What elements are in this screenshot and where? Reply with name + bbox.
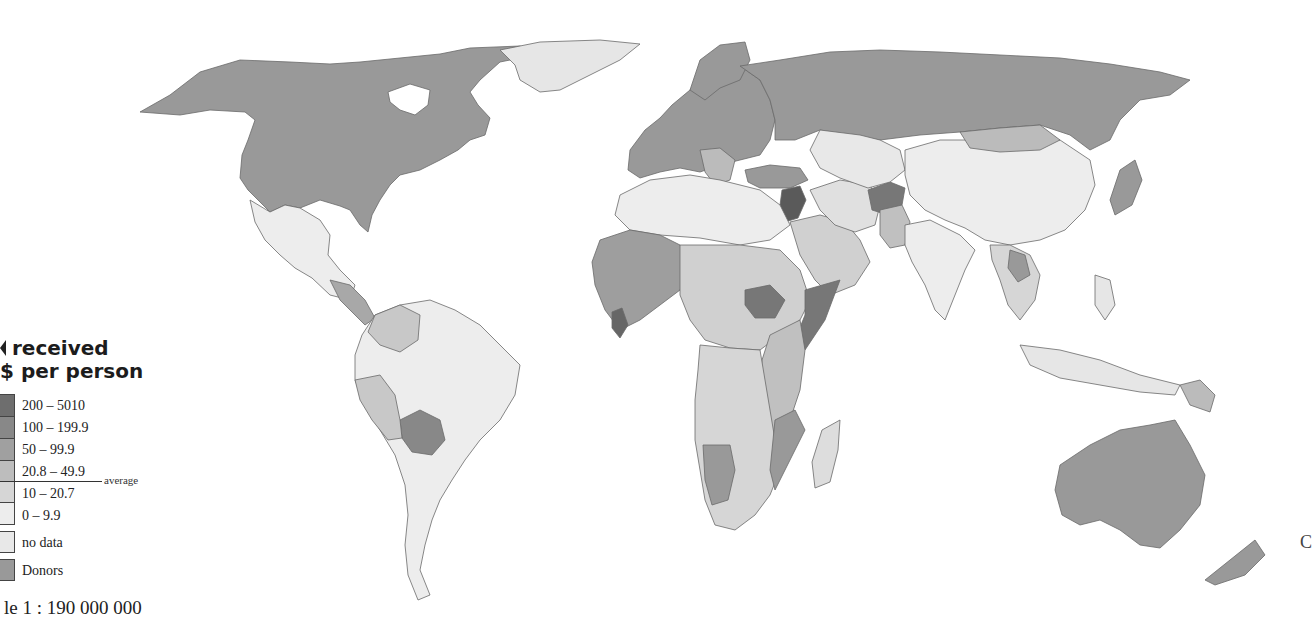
legend-label-no-data: no data (22, 535, 63, 551)
legend-label-0-9: 0 – 9.9 (22, 508, 61, 524)
region-greenland (500, 40, 640, 92)
legend-label-10-20: 10 – 20.7 (22, 486, 75, 502)
average-line (0, 481, 102, 482)
swatch-0-9 (0, 502, 15, 525)
legend-label-100-199: 100 – 199.9 (22, 420, 89, 436)
swatch-200-5010 (0, 394, 15, 417)
legend-label-200-5010: 200 – 5010 (22, 398, 85, 414)
average-label: average (104, 474, 138, 486)
region-mozambique (770, 410, 805, 490)
region-north-america (140, 46, 540, 232)
region-new-zealand (1205, 540, 1265, 585)
region-philippines (1095, 275, 1115, 320)
swatch-10-20 (0, 481, 15, 503)
legend-label-20-49: 20.8 – 49.9 (22, 464, 85, 480)
legend-label-50-99: 50 – 99.9 (22, 442, 75, 458)
region-png (1180, 380, 1215, 412)
swatch-20-49 (0, 460, 15, 482)
map-scale: le 1 : 190 000 000 (4, 597, 142, 619)
cropped-edge-text: C (1300, 532, 1312, 553)
region-west-africa (592, 230, 690, 330)
region-japan (1110, 160, 1142, 215)
title-marker-icon (0, 340, 6, 356)
legend-title-line2: $ per person (0, 359, 143, 383)
legend-title-line1: received (0, 336, 109, 360)
region-australia (1055, 420, 1205, 548)
region-india (905, 220, 975, 320)
region-madagascar (812, 420, 840, 488)
swatch-donors (0, 559, 15, 581)
region-turkey (745, 165, 808, 188)
swatch-no-data (0, 531, 15, 553)
swatch-50-99 (0, 438, 15, 461)
legend-label-donors: Donors (22, 563, 63, 579)
swatch-100-199 (0, 416, 15, 439)
region-indonesia (1020, 345, 1180, 395)
